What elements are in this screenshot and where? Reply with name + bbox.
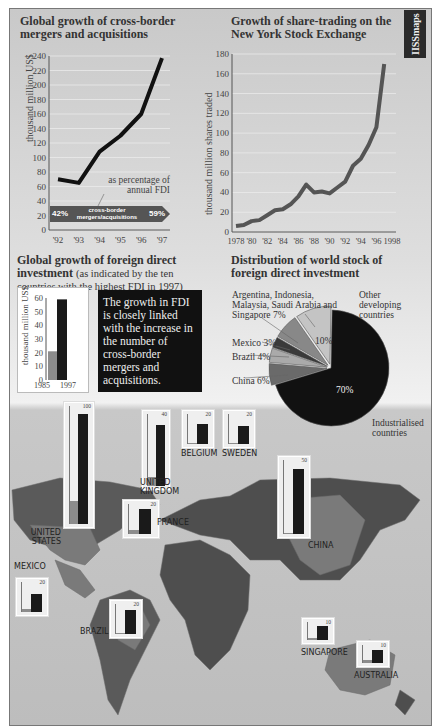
world-map [0,0,439,728]
country-label-belgium: BELGIUM [181,449,217,458]
inset-brazil: 20 [110,600,142,638]
country-label-china: CHINA [308,541,333,550]
country-label-uk: UNITED KINGDOM [140,478,195,496]
inset-mexico: 20 [16,578,48,616]
country-label-brazil: BRAZIL [80,627,109,636]
inset-belgium: 20 [182,410,214,448]
inset-united-states: 100 [64,402,94,528]
country-label-us: UNITED STATES [21,528,61,546]
country-label-mexico: MEXICO [14,562,46,571]
inset-australia: 10 [357,641,389,667]
country-label-sweden: SWEDEN [222,449,257,458]
inset-france: 20 [123,500,159,538]
country-label-australia: AUSTRALIA [354,671,398,680]
country-label-singapore: SINGAPORE [301,648,348,657]
inset-china: 50 [278,456,310,538]
inset-singapore: 10 [302,618,334,644]
country-label-france: FRANCE [157,518,189,527]
inset-sweden: 20 [223,410,255,448]
